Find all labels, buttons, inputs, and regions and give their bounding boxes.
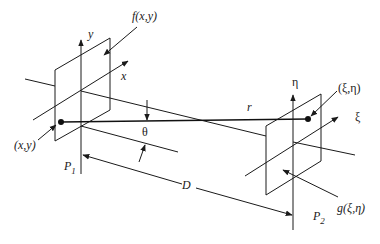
d-arrow-left (83, 155, 182, 184)
label-xi: ξ (355, 110, 361, 124)
label-theta: θ (142, 125, 148, 139)
obs-point-dot (305, 116, 311, 122)
obs-xi-axis (245, 117, 338, 176)
obs-point-pointer (311, 91, 337, 116)
parallel-axis-line (81, 126, 178, 152)
label-y: y (87, 27, 94, 41)
ray-r (61, 119, 308, 122)
f-pointer-arrow (104, 27, 137, 55)
label-d: D (181, 178, 191, 192)
diffraction-diagram: f(x,y) y x (x,y) P1 θ r D η ξ (ξ,η) g(ξ,… (0, 0, 380, 244)
label-eta: η (292, 75, 298, 89)
label-x: x (120, 69, 127, 83)
label-source-point: (x,y) (14, 138, 36, 152)
source-point-pointer (38, 125, 56, 140)
label-obs-point: (ξ,η) (338, 81, 361, 95)
label-f: f(x,y) (132, 9, 157, 23)
label-p1: P1 (63, 159, 76, 176)
label-g: g(ξ,η) (337, 201, 365, 215)
d-arrow-right (196, 188, 292, 215)
label-r: r (247, 100, 252, 114)
optical-axis (25, 79, 355, 155)
g-pointer-arrow (283, 170, 338, 197)
theta-arrow-bottom (139, 145, 145, 162)
label-p2: P2 (312, 209, 325, 226)
